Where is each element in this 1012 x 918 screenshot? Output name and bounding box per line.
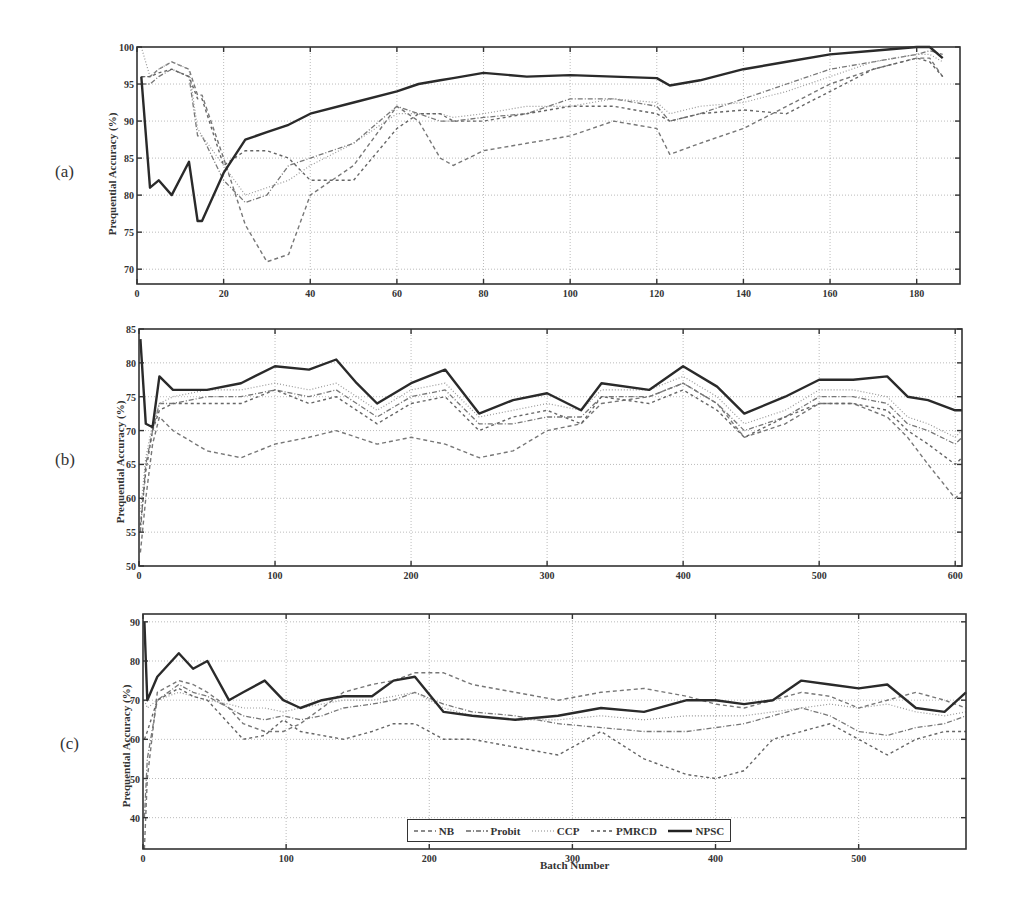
series-probit xyxy=(144,685,966,818)
series-npsc xyxy=(144,622,966,720)
series-npsc xyxy=(140,339,962,427)
svg-text:80: 80 xyxy=(126,358,136,369)
legend-item-nb: NB xyxy=(414,825,454,837)
svg-text:95: 95 xyxy=(124,79,134,90)
legend-item-npsc: NPSC xyxy=(668,825,724,837)
chart-a: 020406080100120140160180707580859095100 xyxy=(0,0,1012,310)
series-ccp xyxy=(140,376,962,511)
svg-text:200: 200 xyxy=(404,570,419,581)
legend-item-probit: Probit xyxy=(466,825,521,837)
svg-text:55: 55 xyxy=(126,527,136,538)
svg-text:20: 20 xyxy=(219,288,229,299)
series-nb xyxy=(140,383,962,552)
svg-text:90: 90 xyxy=(130,617,140,628)
legend-label: Probit xyxy=(491,825,521,837)
svg-text:80: 80 xyxy=(130,656,140,667)
legend: NB Probit CCP PMRCD NPSC xyxy=(407,819,731,842)
svg-text:60: 60 xyxy=(126,493,136,504)
panel-b-ylabel: Prequential Accuracy (%) xyxy=(114,392,126,532)
svg-text:300: 300 xyxy=(540,570,555,581)
svg-text:65: 65 xyxy=(126,459,136,470)
svg-text:75: 75 xyxy=(124,227,134,238)
svg-text:200: 200 xyxy=(422,853,437,864)
svg-text:90: 90 xyxy=(124,116,134,127)
svg-text:600: 600 xyxy=(948,570,963,581)
series-probit xyxy=(141,51,942,203)
svg-text:70: 70 xyxy=(130,695,140,706)
legend-line-dashdot-icon xyxy=(466,828,488,834)
legend-item-ccp: CCP xyxy=(532,825,580,837)
svg-text:160: 160 xyxy=(823,288,838,299)
svg-text:0: 0 xyxy=(137,570,142,581)
legend-label: NPSC xyxy=(695,825,724,837)
svg-text:500: 500 xyxy=(851,853,866,864)
svg-text:80: 80 xyxy=(124,190,134,201)
series-pmrcd xyxy=(140,390,962,526)
series-probit xyxy=(140,383,962,532)
svg-text:140: 140 xyxy=(736,288,751,299)
svg-text:40: 40 xyxy=(130,813,140,824)
svg-text:50: 50 xyxy=(126,561,136,572)
svg-text:85: 85 xyxy=(126,324,136,335)
panel-c-ylabel: Prequential Accuracy (%) xyxy=(120,676,132,816)
svg-text:100: 100 xyxy=(268,570,283,581)
legend-label: NB xyxy=(439,825,454,837)
legend-item-pmrcd: PMRCD xyxy=(591,825,657,837)
svg-text:100: 100 xyxy=(119,42,134,53)
panel-b-label: (b) xyxy=(55,450,75,470)
series-pmrcd xyxy=(144,688,966,778)
svg-text:400: 400 xyxy=(676,570,691,581)
legend-line-dashed-icon xyxy=(414,828,436,834)
svg-text:500: 500 xyxy=(812,570,827,581)
svg-text:50: 50 xyxy=(130,774,140,785)
x-axis-label: Batch Number xyxy=(540,859,609,871)
panel-a: (a) Prequential Accuracy (%) 02040608010… xyxy=(0,0,1012,310)
legend-line-dashed-sparse-icon xyxy=(591,828,613,834)
svg-text:40: 40 xyxy=(305,288,315,299)
svg-text:120: 120 xyxy=(649,288,664,299)
legend-line-dotted-icon xyxy=(532,828,554,834)
svg-text:70: 70 xyxy=(124,264,134,275)
svg-text:400: 400 xyxy=(708,853,723,864)
svg-text:80: 80 xyxy=(479,288,489,299)
svg-text:70: 70 xyxy=(126,426,136,437)
svg-text:180: 180 xyxy=(909,288,924,299)
svg-text:60: 60 xyxy=(392,288,402,299)
legend-label: PMRCD xyxy=(616,825,657,837)
legend-label: CCP xyxy=(557,825,580,837)
legend-line-solid-icon xyxy=(668,828,692,834)
svg-text:300: 300 xyxy=(565,853,580,864)
series-nb xyxy=(141,58,942,262)
svg-text:75: 75 xyxy=(126,392,136,403)
svg-text:85: 85 xyxy=(124,153,134,164)
svg-text:0: 0 xyxy=(135,288,140,299)
svg-text:100: 100 xyxy=(279,853,294,864)
panel-c-label: (c) xyxy=(60,734,79,754)
svg-text:60: 60 xyxy=(130,734,140,745)
series-ccp xyxy=(144,692,966,720)
svg-text:100: 100 xyxy=(563,288,578,299)
svg-text:0: 0 xyxy=(141,853,146,864)
